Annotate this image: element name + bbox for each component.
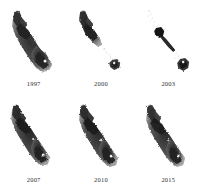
panel-2000[interactable]: 2000 (67, 0, 134, 95)
panel-1997[interactable]: 1997 (0, 0, 67, 95)
panel-image-2000 (67, 2, 134, 80)
panel-image-1997 (0, 2, 67, 80)
panel-image-2010 (67, 97, 134, 175)
panel-grid: 1997 (0, 0, 202, 189)
panel-2003[interactable]: 2003 (135, 0, 202, 95)
panel-2007[interactable]: 2007 (0, 95, 67, 190)
panel-image-2007 (0, 97, 67, 175)
panel-2015[interactable]: 2015 (135, 95, 202, 190)
panel-2010[interactable]: 2010 (67, 95, 134, 190)
panel-image-2003 (135, 2, 202, 80)
panel-image-2015 (135, 97, 202, 175)
figure-panel-grid: 1997 (0, 0, 202, 189)
panel-label-2007: 2007 (27, 176, 41, 185)
panel-label-2015: 2015 (161, 176, 175, 185)
panel-label-1997: 1997 (27, 80, 41, 89)
panel-label-2003: 2003 (161, 80, 175, 89)
panel-label-2010: 2010 (94, 176, 108, 185)
panel-label-2000: 2000 (94, 80, 108, 89)
